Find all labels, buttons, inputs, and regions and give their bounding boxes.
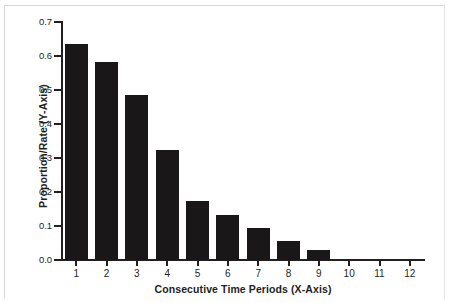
y-axis-title: Proportion/Rate (Y-Axis) [37, 46, 49, 246]
bar [65, 44, 88, 260]
x-axis-tick-label: 10 [334, 268, 364, 279]
x-axis-tick [257, 260, 259, 266]
x-axis-tick [136, 260, 138, 266]
bar [216, 215, 239, 260]
x-axis-tick-label: 5 [183, 268, 213, 279]
bar [95, 62, 118, 260]
y-axis-tick [54, 123, 62, 125]
x-axis-tick-label: 11 [365, 268, 395, 279]
x-axis-tick-label: 1 [61, 268, 91, 279]
bar [277, 241, 300, 260]
bar [156, 150, 179, 260]
x-axis-tick-label: 7 [243, 268, 273, 279]
x-axis-tick-label: 9 [304, 268, 334, 279]
x-axis-tick-label: 2 [92, 268, 122, 279]
x-axis-tick [106, 260, 108, 266]
x-axis-tick [197, 260, 199, 266]
x-axis-tick-label: 8 [274, 268, 304, 279]
bar [186, 201, 209, 260]
x-axis-tick-label: 4 [152, 268, 182, 279]
x-axis-tick-label: 6 [213, 268, 243, 279]
y-axis-tick [54, 55, 62, 57]
bar-chart: 0.00.10.20.30.40.50.60.7 123456789101112… [0, 0, 459, 303]
y-axis-tick-label: 0.0 [18, 254, 52, 266]
y-axis-tick [54, 157, 62, 159]
bar [125, 95, 148, 260]
x-axis-tick [75, 260, 77, 266]
x-axis-tick [409, 260, 411, 266]
x-axis-tick [348, 260, 350, 266]
y-axis-tick [54, 191, 62, 193]
x-axis-tick [318, 260, 320, 266]
y-axis-tick-label-text: 0.7 [22, 16, 52, 27]
x-axis-tick-label: 12 [395, 268, 425, 279]
x-axis-tick [379, 260, 381, 266]
x-axis-title: Consecutive Time Periods (X-Axis) [61, 283, 425, 295]
y-axis-tick-label: 0.7 [18, 16, 52, 28]
y-axis-tick [54, 259, 62, 261]
x-axis-tick [166, 260, 168, 266]
bar [247, 228, 270, 260]
y-axis-tick [54, 89, 62, 91]
x-axis-tick-label: 3 [122, 268, 152, 279]
x-axis-tick [288, 260, 290, 266]
y-axis-tick [54, 21, 62, 23]
y-axis-tick [54, 225, 62, 227]
y-axis-tick-label-text: 0.0 [22, 254, 52, 265]
bar [307, 250, 330, 260]
x-axis-tick [227, 260, 229, 266]
